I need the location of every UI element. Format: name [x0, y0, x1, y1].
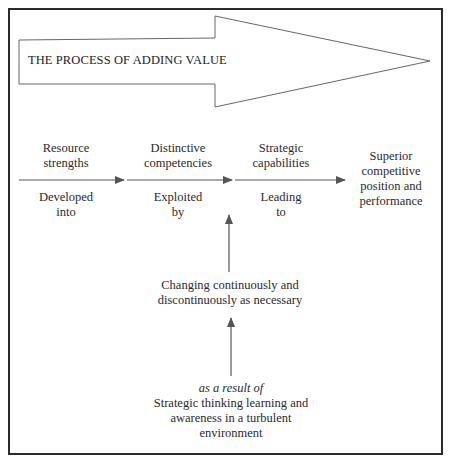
diagram-title: THE PROCESS OF ADDING VALUE — [28, 53, 227, 68]
stage-superior-position: Superior competitive position and perfor… — [348, 149, 434, 209]
change-node: Changing continuously and discontinuousl… — [120, 278, 340, 308]
connector-exploited-by: Exploited by — [126, 190, 230, 220]
connector-developed-into: Developed into — [18, 190, 114, 220]
cause-node: Strategic thinking learning and awarenes… — [120, 396, 342, 441]
stage-distinctive-competencies: Distinctive competencies — [126, 141, 230, 171]
cause-prefix: as a result of — [120, 381, 342, 396]
stage-resource-strengths: Resource strengths — [18, 141, 114, 171]
connector-leading-to: Leading to — [236, 190, 326, 220]
stage-strategic-capabilities: Strategic capabilities — [236, 141, 326, 171]
